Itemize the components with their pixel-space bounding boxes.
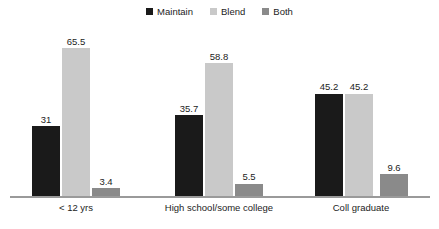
bar-both-highschool: 5.5 <box>235 184 263 196</box>
bar-value-label: 45.2 <box>320 82 339 92</box>
x-tick-label-highschool: High school/some college <box>165 203 273 213</box>
bar-value-label: 58.8 <box>210 52 229 62</box>
bar-both-collgrad: 9.6 <box>380 174 408 196</box>
bar-value-label: 3.4 <box>99 177 112 187</box>
x-axis-baseline <box>10 196 430 198</box>
bar-maintain-collgrad: 45.2 <box>315 94 343 196</box>
bar-blend-lt12: 65.5 <box>62 48 90 196</box>
grouped-bar-chart: Maintain Blend Both 31 65.5 3.4 < 12 yrs… <box>0 0 439 229</box>
bar-maintain-lt12: 31 <box>32 126 60 196</box>
x-tick-label-collgrad: Coll graduate <box>333 203 390 213</box>
bar-value-label: 65.5 <box>67 37 86 47</box>
bar-blend-highschool: 58.8 <box>205 63 233 196</box>
plot-area: 31 65.5 3.4 < 12 yrs 35.7 58.8 5.5 High … <box>0 0 439 229</box>
x-tick-label-lt12: < 12 yrs <box>59 203 93 213</box>
bar-value-label: 35.7 <box>180 104 199 114</box>
bar-value-label: 45.2 <box>350 82 369 92</box>
bar-value-label: 31 <box>41 115 52 125</box>
bar-maintain-highschool: 35.7 <box>175 115 203 196</box>
bar-blend-collgrad: 45.2 <box>345 94 373 196</box>
bar-both-lt12: 3.4 <box>92 188 120 196</box>
bar-value-label: 5.5 <box>242 172 255 182</box>
bar-value-label: 9.6 <box>387 163 400 173</box>
